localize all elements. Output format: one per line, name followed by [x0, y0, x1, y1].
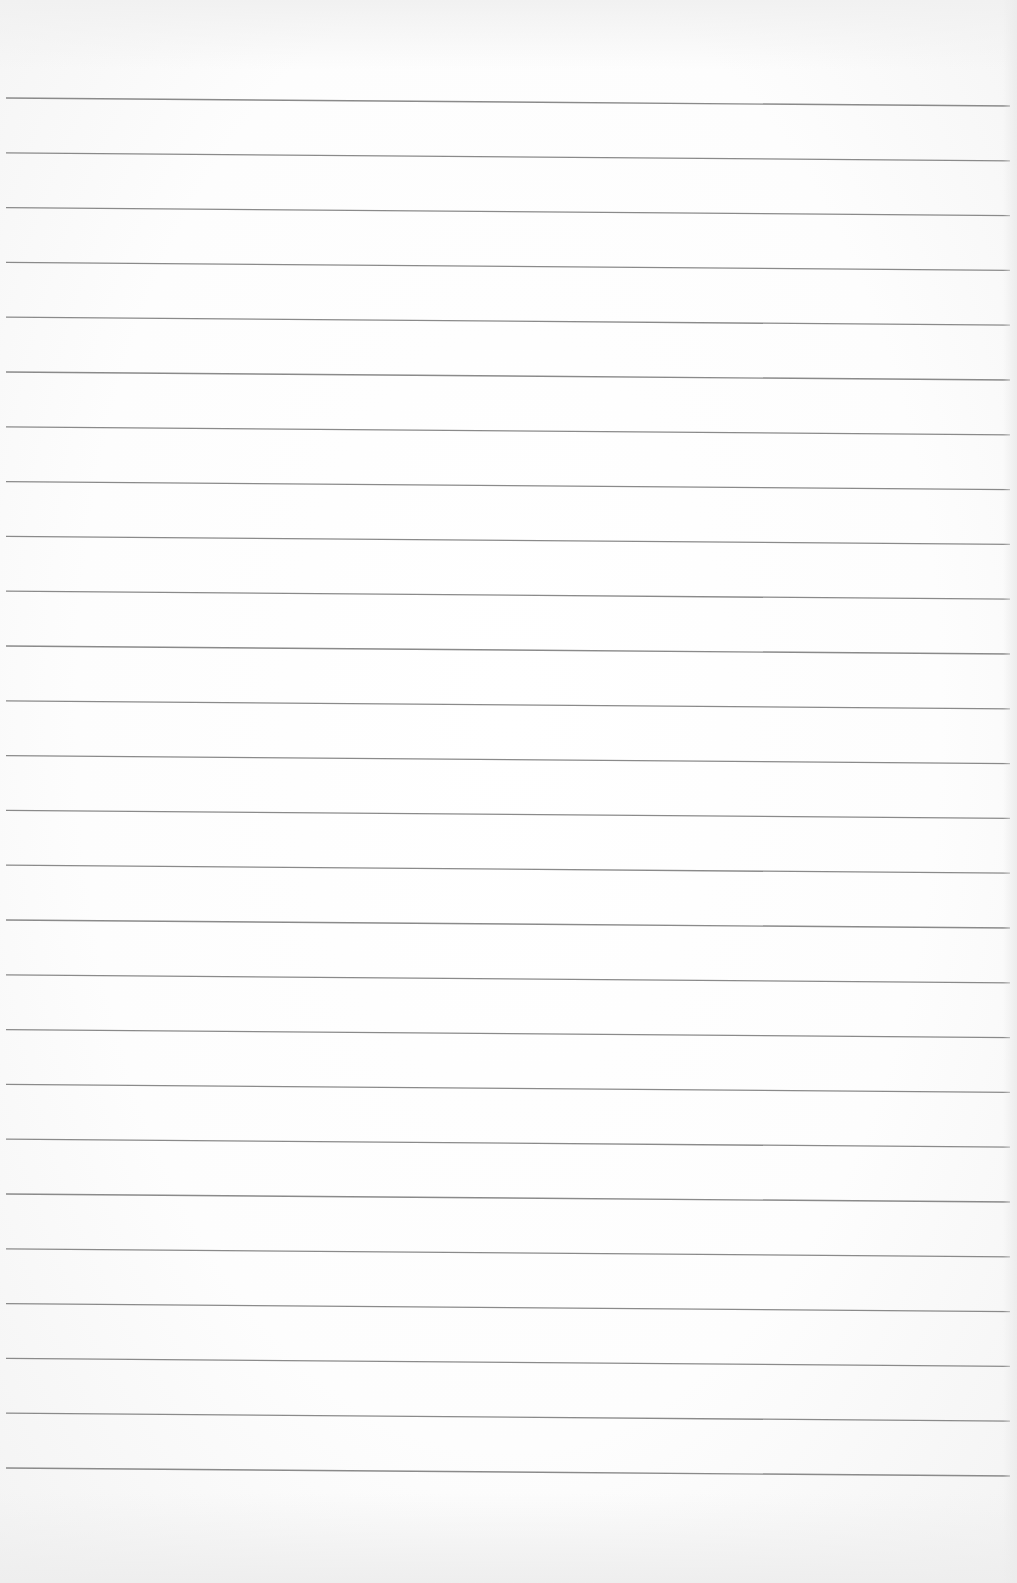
ruled-line	[6, 920, 1010, 928]
ruled-line	[6, 865, 1010, 873]
ruled-line	[6, 536, 1010, 544]
ruled-line	[6, 975, 1010, 983]
ruled-line	[6, 153, 1010, 161]
ruled-line	[6, 810, 1010, 818]
ruled-line	[6, 1139, 1010, 1147]
ruled-line	[6, 1304, 1010, 1312]
ruled-line	[6, 372, 1010, 380]
ruled-line	[6, 591, 1010, 599]
ruled-line	[6, 482, 1010, 490]
ruled-line	[6, 756, 1010, 764]
ruled-line	[6, 1084, 1010, 1092]
ruled-line	[6, 317, 1010, 325]
ruled-line	[6, 646, 1010, 654]
ruled-line	[6, 1194, 1010, 1202]
lined-paper-page	[0, 0, 1017, 1583]
ruled-line	[6, 208, 1010, 216]
ruled-line	[6, 1468, 1010, 1476]
ruled-line	[6, 1030, 1010, 1038]
ruled-line	[6, 262, 1010, 270]
ruled-line	[6, 98, 1010, 106]
ruled-line	[6, 701, 1010, 709]
ruled-line	[6, 427, 1010, 435]
ruled-lines	[0, 0, 1017, 1583]
ruled-line	[6, 1249, 1010, 1257]
ruled-line	[6, 1358, 1010, 1366]
ruled-line	[6, 1413, 1010, 1421]
